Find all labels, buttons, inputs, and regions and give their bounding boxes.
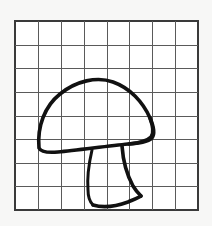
drawing-canvas xyxy=(0,0,212,226)
mushroom-grid-illustration xyxy=(0,0,212,226)
